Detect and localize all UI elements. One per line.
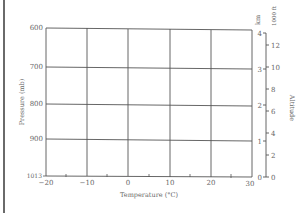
chart-svg: 600 700 800 900 1013 −20 −10 0 10 20 30 … <box>0 0 302 213</box>
km-tick-labels: 4 3 2 1 0 <box>258 30 263 182</box>
y-tick-label: 700 <box>30 63 43 71</box>
gridline-800 <box>46 104 252 106</box>
ft-tick-label: 12 <box>271 42 280 50</box>
pressure-tick-labels: 600 700 800 900 1013 <box>27 24 43 179</box>
ft-tick-label: 6 <box>271 108 276 116</box>
ft-tick-label: 4 <box>271 130 276 138</box>
gridline-700 <box>46 67 252 69</box>
x-tick-label: 20 <box>207 179 216 187</box>
km-unit-label: km <box>254 15 262 25</box>
altitude-axis <box>263 33 269 177</box>
x-tick-label: −20 <box>39 179 54 187</box>
ft-tick-label: 8 <box>271 86 275 94</box>
ft-tick-labels: 12 10 8 6 4 2 0 <box>271 42 280 182</box>
altitude-axis-title: Altitude <box>288 94 296 121</box>
x-tick-label: −10 <box>80 179 95 187</box>
x-tick-label: 10 <box>166 179 175 187</box>
km-tick-label: 1 <box>258 138 262 146</box>
x-tick-label: 30 <box>246 180 255 188</box>
plot-grid <box>46 28 252 177</box>
temperature-tick-labels: −20 −10 0 10 20 30 <box>39 179 255 188</box>
ft-tick-label: 2 <box>271 152 275 160</box>
ft-tick-label: 0 <box>271 174 275 182</box>
ft-tick-label: 10 <box>271 64 280 72</box>
km-tick-label: 0 <box>258 174 262 182</box>
km-tick-label: 2 <box>258 102 262 110</box>
y-tick-label: 800 <box>30 100 43 108</box>
gridline-900 <box>46 139 252 141</box>
y-tick-label: 900 <box>30 135 43 143</box>
y-axis-title: Pressure (mb) <box>18 78 26 125</box>
x-axis-title: Temperature (°C) <box>120 191 178 199</box>
x-tick-label: 0 <box>126 179 130 187</box>
km-tick-label: 4 <box>258 30 263 38</box>
km-tick-label: 3 <box>258 66 262 74</box>
y-tick-label: 600 <box>30 24 43 32</box>
ft-unit-label: 1000 ft <box>271 5 277 26</box>
y-tick-label: 1013 <box>27 172 42 179</box>
gridline-600 <box>46 28 252 30</box>
